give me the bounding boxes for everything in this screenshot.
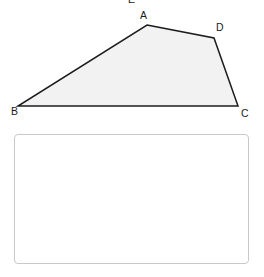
- vertex-label-e: E: [128, 0, 135, 5]
- quadrilateral-diagram: [0, 0, 264, 128]
- geometry-figure: E A D B C: [0, 0, 264, 128]
- vertex-label-a: A: [140, 10, 147, 21]
- vertex-label-d: D: [216, 22, 224, 33]
- answer-input-box[interactable]: [14, 134, 249, 264]
- vertex-label-c: C: [241, 108, 249, 119]
- quadrilateral-shape: [18, 25, 238, 106]
- vertex-label-b: B: [11, 106, 18, 117]
